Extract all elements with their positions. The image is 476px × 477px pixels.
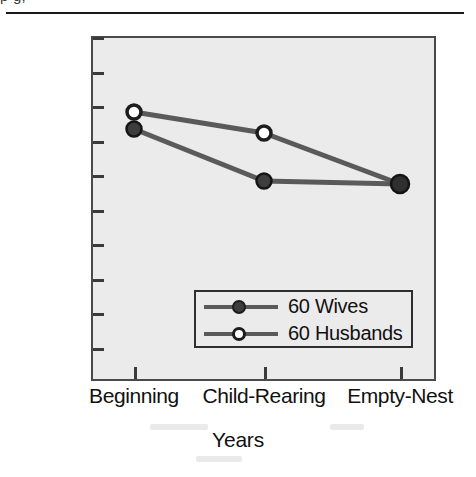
y-tick-mark: [93, 313, 104, 316]
legend-label-husbands: 60 Husbands: [288, 322, 403, 345]
y-tick-mark: [93, 244, 104, 247]
x-tick-mark: [134, 367, 137, 379]
y-tick-mark: [93, 348, 104, 351]
x-tick-label-child-rearing: Child-Rearing: [202, 385, 325, 406]
y-tick-mark: [93, 210, 104, 213]
scan-artifact: [330, 424, 364, 430]
x-tick-mark: [400, 367, 403, 379]
chart-legend: 60 Wives 60 Husbands: [194, 290, 413, 348]
x-tick-label-empty-nest: Empty-Nest: [347, 385, 453, 406]
legend-row-husbands: 60 Husbands: [196, 320, 411, 347]
line-chart: 100% 90% 80% 70% 60% 50% 40% 30% 20% 10%…: [0, 0, 476, 477]
scan-artifact: [196, 456, 242, 462]
scan-artifact: [150, 424, 208, 430]
y-tick-mark: [93, 72, 104, 75]
y-tick-mark: [93, 141, 104, 144]
x-tick-label-beginning: Beginning: [89, 385, 179, 406]
y-tick-mark: [93, 37, 104, 40]
x-axis-title: Years: [0, 428, 476, 452]
y-tick-mark: [93, 279, 104, 282]
y-tick-mark: [93, 106, 104, 109]
legend-marker-open-circle-icon: [204, 324, 278, 344]
legend-marker-filled-circle-icon: [204, 297, 278, 317]
y-tick-mark: [93, 175, 104, 178]
legend-row-wives: 60 Wives: [196, 293, 411, 320]
x-tick-mark: [264, 367, 267, 379]
legend-label-wives: 60 Wives: [288, 295, 368, 318]
